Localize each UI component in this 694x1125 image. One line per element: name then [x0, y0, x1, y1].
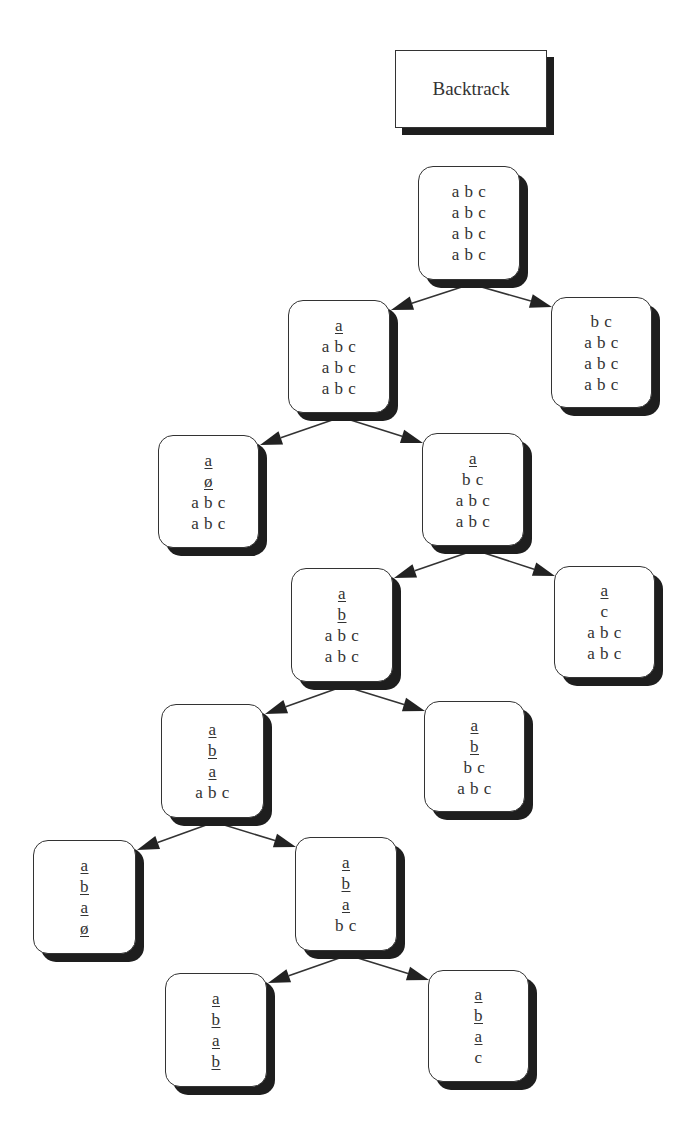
chosen-value: a [80, 897, 88, 918]
edge-arrow-n7-n10 [215, 822, 297, 847]
candidate-values: b c [591, 311, 613, 332]
node-line-text: b [474, 1006, 483, 1025]
arrowhead-icon [268, 969, 291, 983]
node-line-text: a [208, 720, 216, 739]
node-line-text: ø [204, 472, 213, 491]
chosen-value: b [212, 1009, 221, 1030]
edge-arrow-n10-n11 [268, 955, 348, 983]
tree-node-n11: abab [165, 973, 267, 1087]
node-line-text: a [474, 985, 482, 1004]
tree-edges [0, 0, 694, 1125]
node-line-text: a b c [456, 491, 491, 510]
candidate-values: a b c [322, 357, 357, 378]
node-line-text: b [212, 1010, 221, 1029]
candidate-values: a b c [584, 332, 619, 353]
candidate-values: b c [462, 469, 484, 490]
tree-node-n9: abaø [33, 840, 136, 954]
candidate-values: a b c [457, 778, 492, 799]
node-line-text: b [212, 1052, 221, 1071]
candidate-values: a b c [322, 336, 357, 357]
chosen-value: b [342, 873, 351, 894]
tree-node-n8: abb ca b c [424, 701, 525, 812]
arrowhead-icon [391, 297, 414, 310]
candidate-values: a b c [587, 622, 622, 643]
candidate-values: a b c [195, 782, 230, 803]
node-line-text: a [80, 856, 88, 875]
node-line-text: a b c [322, 337, 357, 356]
tree-node-n7: abaa b c [161, 704, 264, 818]
node-line-text: a [204, 451, 212, 470]
node-line-text: a b c [322, 379, 357, 398]
node-line-text: ø [80, 919, 89, 938]
tree-node-n6: aca b ca b c [554, 566, 655, 678]
node-line-text: a [208, 762, 216, 781]
edge-arrow-n10-n12 [348, 955, 429, 980]
node-line-text: a [342, 895, 350, 914]
node-line-text: a b c [584, 354, 619, 373]
tree-node-n10: abab c [295, 837, 397, 951]
node-line-text: a b c [325, 626, 360, 645]
node-line-text: a b c [457, 779, 492, 798]
tree-node-n5: aba b ca b c [291, 568, 393, 682]
node-line-text: c [474, 1048, 482, 1067]
node-line-text: a b c [195, 783, 230, 802]
node-line-text: a b c [322, 358, 357, 377]
chosen-value: a [470, 715, 478, 736]
node-line-text: a [335, 316, 343, 335]
node-line-text: a b c [191, 493, 226, 512]
candidate-values: a b c [191, 492, 226, 513]
node-line-text: b [342, 874, 351, 893]
candidate-values: a b c [452, 244, 487, 265]
candidate-values: c [600, 601, 608, 622]
arrowhead-icon [532, 563, 555, 576]
edge-arrow-n1-n4 [341, 417, 423, 443]
node-line-text: a [80, 898, 88, 917]
node-line-text: a [342, 853, 350, 872]
node-line-text: a b c [452, 203, 487, 222]
chosen-value: a [474, 984, 482, 1005]
node-line-text: a b c [325, 647, 360, 666]
node-line-text: b c [462, 470, 484, 489]
chosen-value: a [342, 852, 350, 873]
chosen-value: b [470, 736, 479, 757]
chosen-value: a [342, 894, 350, 915]
node-line-text: b [470, 737, 479, 756]
node-line-text: a [470, 716, 478, 735]
chosen-value: a [474, 1026, 482, 1047]
tree-node-n1: aa b ca b ca b c [288, 300, 390, 413]
candidate-values: a b c [191, 513, 226, 534]
arrowhead-icon [260, 431, 283, 445]
edge-arrow-n1-n3 [260, 417, 341, 445]
chosen-value: a [208, 761, 216, 782]
edge-arrow-n5-n7 [265, 686, 344, 714]
diagram-title-label: Backtrack [432, 78, 509, 100]
tree-node-n12: abac [428, 970, 529, 1082]
chosen-value: b [80, 876, 89, 897]
chosen-value: a [212, 1030, 220, 1051]
node-line-text: a b c [587, 623, 622, 642]
node-line-text: a [469, 449, 477, 468]
candidate-values: a b c [584, 353, 619, 374]
node-line-text: a [212, 1031, 220, 1050]
tree-node-n2: b ca b ca b ca b c [551, 297, 652, 408]
edge-arrow-n4-n6 [475, 550, 555, 576]
node-line-text: a b c [584, 375, 619, 394]
candidate-values: a b c [584, 374, 619, 395]
chosen-value: a [212, 988, 220, 1009]
node-line-text: b c [591, 312, 613, 331]
candidate-values: a b c [322, 378, 357, 399]
arrowhead-icon [406, 967, 429, 980]
chosen-value: ø [80, 918, 89, 939]
chosen-value: a [335, 315, 343, 336]
edge-arrow-n4-n5 [394, 550, 475, 578]
candidate-values: a b c [456, 490, 491, 511]
node-line-text: b c [464, 758, 486, 777]
arrowhead-icon [265, 700, 288, 714]
chosen-value: a [338, 583, 346, 604]
chosen-value: a [600, 580, 608, 601]
node-line-text: b [338, 605, 347, 624]
arrowhead-icon [402, 698, 425, 711]
chosen-value: a [80, 855, 88, 876]
node-line-text: b [80, 877, 89, 896]
chosen-value: b [474, 1005, 483, 1026]
